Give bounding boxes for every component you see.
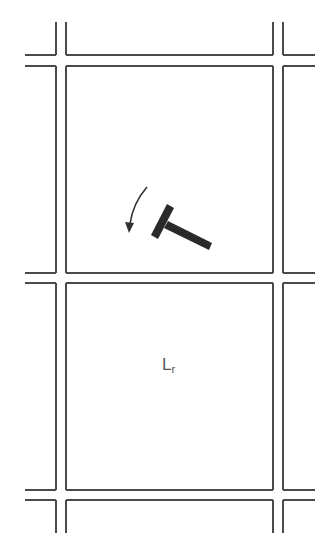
street-grid	[25, 22, 315, 533]
t-bar-icon	[151, 204, 212, 250]
rotation-arrow-icon	[125, 187, 147, 233]
block-label-lr: Lr	[162, 355, 175, 375]
street-grid-diagram	[0, 0, 329, 551]
label-subscript: r	[171, 363, 175, 375]
